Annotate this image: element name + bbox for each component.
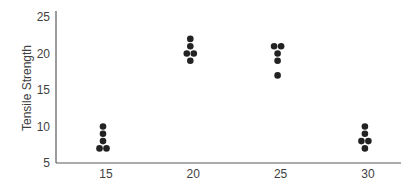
- y-tick-label: 5: [43, 156, 50, 170]
- data-point: [187, 58, 194, 65]
- data-point: [362, 145, 369, 152]
- x-axis-ticks: 15202530: [99, 167, 375, 181]
- data-point: [358, 138, 365, 145]
- data-point: [187, 36, 194, 43]
- data-point: [103, 145, 110, 152]
- dot-plot-chart: Tensile Strength 510152025 15202530: [0, 0, 417, 193]
- y-tick-label: 25: [37, 10, 51, 24]
- data-point: [274, 50, 281, 57]
- data-point: [187, 43, 194, 50]
- data-point: [365, 138, 372, 145]
- y-axis-title: Tensile Strength: [20, 45, 34, 131]
- y-tick-label: 10: [37, 120, 51, 134]
- data-points: [96, 36, 372, 152]
- data-point: [271, 43, 278, 50]
- x-tick-label: 25: [274, 167, 288, 181]
- y-axis-label: Tensile Strength: [20, 45, 34, 131]
- data-point: [278, 43, 285, 50]
- x-tick-label: 30: [361, 167, 375, 181]
- y-tick-label: 15: [37, 83, 51, 97]
- y-axis-ticks: 510152025: [37, 10, 51, 170]
- data-point: [274, 58, 281, 65]
- data-point: [100, 138, 107, 145]
- x-tick-label: 15: [99, 167, 113, 181]
- data-point: [100, 123, 107, 130]
- data-point: [96, 145, 103, 152]
- data-point: [362, 131, 369, 138]
- data-point: [362, 123, 369, 130]
- x-tick-label: 20: [187, 167, 201, 181]
- data-point: [191, 50, 198, 57]
- data-point: [274, 72, 281, 79]
- y-tick-label: 20: [37, 47, 51, 61]
- data-point: [184, 50, 191, 57]
- data-point: [100, 131, 107, 138]
